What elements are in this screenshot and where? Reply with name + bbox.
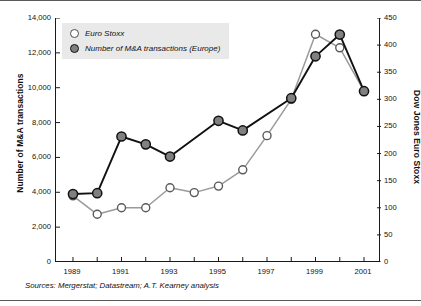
right-tick-label: 250 <box>384 121 421 130</box>
left-tick-label: 10,000 <box>11 83 51 92</box>
euro-stoxx-point <box>142 204 150 212</box>
x-tick-label: 1997 <box>246 267 286 276</box>
left-tick-label: 6,000 <box>11 152 51 161</box>
x-tick-label: 1993 <box>149 267 189 276</box>
right-tick-label: 50 <box>384 230 421 239</box>
source-note: Sources: Mergerstat; Datastream; A.T. Ke… <box>25 281 219 290</box>
mna-transactions-point <box>335 30 344 39</box>
left-tick-label: 14,000 <box>11 13 51 22</box>
euro-stoxx-point <box>239 166 247 174</box>
right-tick-label: 150 <box>384 176 421 185</box>
open-circle-marker-icon <box>70 29 79 38</box>
mna-transactions-point <box>117 132 126 141</box>
euro-stoxx-point <box>93 210 101 218</box>
right-tick-label: 100 <box>384 203 421 212</box>
right-tick-label: 200 <box>384 149 421 158</box>
right-tick-label: 0 <box>384 257 421 266</box>
mna-transactions-point <box>287 94 296 103</box>
left-tick-label: 8,000 <box>11 118 51 127</box>
mna-transactions-point <box>165 152 174 161</box>
euro-stoxx-point <box>166 184 174 192</box>
left-tick-label: 0 <box>11 257 51 266</box>
mna-transactions-point <box>93 189 102 198</box>
mna-transactions-point <box>214 116 223 125</box>
euro-stoxx-point <box>117 204 125 212</box>
euro-stoxx-point <box>263 132 271 140</box>
euro-stoxx-point <box>336 44 344 52</box>
left-tick-label: 2,000 <box>11 222 51 231</box>
right-tick-label: 300 <box>384 94 421 103</box>
mna-transactions-point <box>238 126 247 135</box>
mna-transactions-point <box>311 52 320 61</box>
mna-transactions-point <box>141 140 150 149</box>
chart-figure: Number of M&A transactions Dow Jones Eur… <box>0 0 421 306</box>
mna-transactions-point <box>359 87 368 96</box>
right-tick-label: 400 <box>384 40 421 49</box>
legend: Euro Stoxx Number of M&A transactions (E… <box>62 23 229 59</box>
left-tick-label: 12,000 <box>11 48 51 57</box>
x-tick-label: 1991 <box>100 267 140 276</box>
x-tick-label: 2001 <box>343 267 383 276</box>
euro-stoxx-point <box>190 189 198 197</box>
euro-stoxx-point <box>215 182 223 190</box>
x-tick-label: 1989 <box>52 267 92 276</box>
top-rule <box>0 0 421 1</box>
legend-item-mna-transactions[interactable]: Number of M&A transactions (Europe) <box>70 44 220 53</box>
legend-item-euro-stoxx[interactable]: Euro Stoxx <box>70 29 220 38</box>
filled-circle-marker-icon <box>70 44 79 53</box>
right-axis-title: Dow Jones Euro Stoxx <box>412 57 421 217</box>
right-tick-label: 450 <box>384 13 421 22</box>
mna-transactions-point <box>68 189 77 198</box>
euro-stoxx-point <box>312 30 320 38</box>
legend-label-euro-stoxx: Euro Stoxx <box>85 29 124 38</box>
x-tick-label: 1999 <box>295 267 335 276</box>
right-tick-label: 350 <box>384 67 421 76</box>
legend-label-mna-transactions: Number of M&A transactions (Europe) <box>85 44 220 53</box>
left-tick-label: 4,000 <box>11 187 51 196</box>
bottom-rule <box>0 300 421 301</box>
x-tick-label: 1995 <box>198 267 238 276</box>
